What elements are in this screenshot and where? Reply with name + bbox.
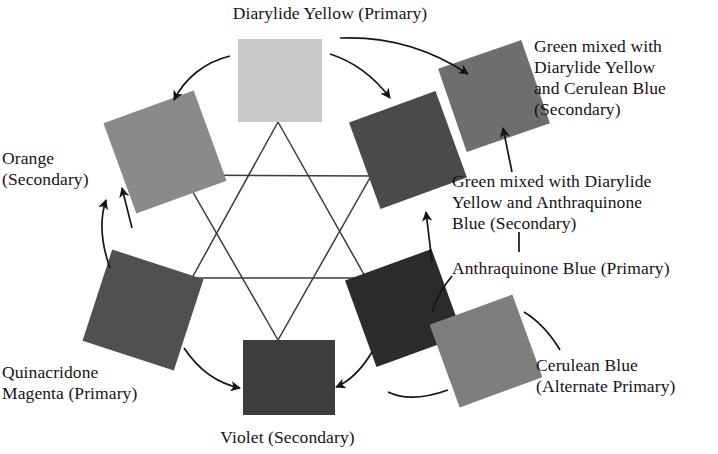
label-anthraquinone-blue: Anthraquinone Blue (Primary) [452,258,718,279]
swatch-quinacridone-magenta [83,250,204,371]
arrow-magenta-to-orange [102,200,110,268]
arrow-cerulean-to-green [388,390,448,397]
label-green-mixed-anthraquinone: Green mixed with Diarylide Yellow and An… [452,171,718,234]
hexagram-down-triangle [183,175,371,340]
arrow-blue-to-violet [336,352,372,387]
label-violet: Violet (Secondary) [150,427,425,448]
arrow-magenta-to-violet [184,348,240,388]
swatch-violet [243,340,335,415]
swatch-diarylide-yellow [238,39,322,122]
label-quinacridone-magenta: Quinacridone Magenta (Primary) [2,362,174,404]
swatch-green-anthraquinone [349,91,467,209]
arrow-yellow-to-green [330,54,390,98]
color-wheel-diagram: Diarylide Yellow (Primary) Orange (Secon… [0,0,718,454]
label-green-mixed-cerulean: Green mixed with Diarylide Yellow and Ce… [534,36,718,120]
label-cerulean-blue: Cerulean Blue (Alternate Primary) [536,355,718,397]
label-diarylide-yellow: Diarylide Yellow (Primary) [185,3,475,24]
arrow-yellow-to-orange [174,56,230,100]
label-orange: Orange (Secondary) [2,148,130,190]
hexagram-up-triangle [192,122,366,278]
